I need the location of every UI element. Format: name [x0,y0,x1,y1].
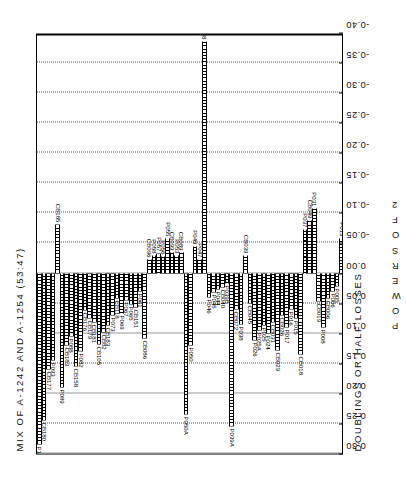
x-tick-label: 0.25 [346,410,366,420]
x-tick [339,333,343,334]
x-axis-title-char: E [392,275,398,285]
gridline [37,392,342,393]
plot-area: P106CB180CB177P093CB185P089CB183P088CB15… [36,33,343,454]
x-tick-label: 0.10 [346,320,366,330]
gridline [37,151,342,152]
bar-label: P049 [192,229,198,243]
bar-label: CB180 [41,422,47,441]
x-tick-label: -0.25 [346,109,369,119]
x-tick-label: 0.30 [346,440,366,450]
x-tick [339,182,343,183]
x-tick [339,212,343,213]
x-axis-title: POWERSOF2 [392,33,406,454]
x-tick-label: -0.05 [346,230,369,240]
bar-label: P031 [311,191,317,205]
x-axis-title-char: F [392,214,398,224]
bar-label: CB151 [133,309,139,328]
x-tick [339,273,343,274]
gridline [37,211,342,212]
x-tick [339,92,343,93]
bar-label: P048 [201,33,207,39]
x-tick-label: -0.10 [346,199,369,209]
bar [142,273,147,338]
x-axis-title-char: O [392,305,399,315]
bar-label: P005 [334,288,340,302]
x-tick-label: -0.20 [346,139,369,149]
bar [188,273,193,345]
bar-label: P050 [188,347,194,361]
x-tick-label: 0.05 [346,290,366,300]
gridline [37,91,342,92]
bar [51,273,56,360]
bar-label: CB089 [178,231,184,250]
x-tick-label: -0.35 [346,49,369,59]
x-axis-title-char: 2 [392,199,397,209]
gridline [37,121,342,122]
x-tick [339,303,343,304]
bar-label: P093 [50,362,56,376]
x-tick [339,243,343,244]
x-axis-title-char: W [392,290,401,300]
bar-label: CB018 [298,356,304,375]
x-tick [339,122,343,123]
bar-label: P073 [110,317,116,331]
x-tick-label: -0.30 [346,79,369,89]
bar [202,41,207,273]
x-tick-label: 0.00 [346,260,366,270]
bar-label: CB185 [55,204,61,223]
x-axis-title-char: R [392,260,399,270]
x-axis-title-char: S [392,245,398,255]
bar-label: CB158 [73,368,79,387]
x-tick [339,423,343,424]
bar-label: P106 [36,446,42,454]
bar-label: P008 [320,329,326,343]
bar-label: P050A [183,416,189,434]
x-tick [339,453,343,454]
gridline [37,61,342,62]
bar [298,273,303,354]
gridline [37,242,342,243]
x-tick-label: 0.20 [346,380,366,390]
bar-label: CB039 [243,234,249,253]
x-axis-title-char: O [392,230,399,240]
bar-label: P082 [78,353,84,367]
x-tick [339,363,343,364]
x-tick [339,393,343,394]
x-axis: 0.300.250.200.150.100.050.00-0.05-0.10-0… [343,33,391,454]
bar-label: P069 [119,315,125,329]
gridline [37,452,342,453]
bar-label: CB086 [142,340,148,359]
x-tick [339,62,343,63]
bar [55,224,60,272]
x-tick-label: 0.15 [346,350,366,360]
bar-label: P038 [238,326,244,340]
bar-label: CB029 [275,352,281,371]
x-tick [339,152,343,153]
bar [335,273,340,286]
gridline [37,181,342,182]
chart-title: MIX OF A-1242 AND A-1254 (53:47) [14,247,25,451]
x-tick-label: -0.15 [346,169,369,179]
bar [239,273,244,324]
x-tick-label: -0.40 [346,19,369,29]
bar [243,255,248,273]
x-tick [339,32,343,33]
bar-label: P039A [229,428,235,446]
bar-label: P017 [284,329,290,343]
x-axis-title-char: P [392,320,398,330]
bar-label: P089 [59,389,65,403]
bar [179,252,184,273]
bar [312,208,317,273]
